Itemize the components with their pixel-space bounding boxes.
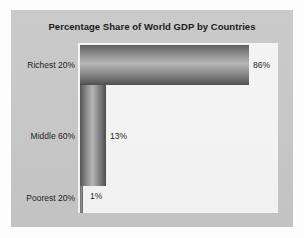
bar-middle <box>80 85 106 186</box>
bar-richest <box>80 45 249 85</box>
chart-figure: Percentage Share of World GDP by Countri… <box>0 0 304 238</box>
category-label-middle: Middle 60% <box>31 131 75 140</box>
value-label-poorest: 1% <box>90 192 102 201</box>
figure-panel: Percentage Share of World GDP by Countri… <box>11 10 293 227</box>
bar-row-richest: Richest 20% 86% <box>80 45 249 85</box>
bar-row-poorest: Poorest 20% 1% <box>80 186 83 213</box>
chart-title: Percentage Share of World GDP by Countri… <box>11 21 293 32</box>
value-label-middle: 13% <box>110 131 127 140</box>
category-label-poorest: Poorest 20% <box>26 194 75 203</box>
value-label-richest: 86% <box>253 61 270 70</box>
bar-row-middle: Middle 60% 13% <box>80 85 106 186</box>
plot-area: Richest 20% 86% Middle 60% 13% Poorest 2… <box>78 43 278 213</box>
category-label-richest: Richest 20% <box>27 61 75 70</box>
bar-poorest <box>80 186 83 213</box>
